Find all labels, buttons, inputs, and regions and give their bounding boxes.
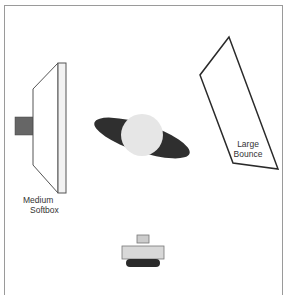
medium-softbox bbox=[15, 63, 66, 193]
label-line: Large bbox=[228, 139, 268, 149]
softbox-body bbox=[33, 63, 58, 193]
camera-base bbox=[126, 259, 160, 267]
softbox-diffuser-face bbox=[58, 63, 66, 193]
camera bbox=[122, 235, 164, 267]
label-line: Softbox bbox=[17, 205, 69, 215]
subject-head bbox=[121, 114, 163, 156]
softbox-light-head bbox=[15, 117, 33, 135]
camera-viewfinder bbox=[137, 235, 149, 243]
subject bbox=[90, 109, 194, 167]
label-line: Bounce bbox=[228, 149, 268, 159]
medium-softbox-label: Medium Softbox bbox=[17, 195, 69, 215]
large-bounce-label: Large Bounce bbox=[228, 139, 268, 159]
camera-body bbox=[122, 246, 164, 259]
label-line: Medium bbox=[17, 195, 69, 205]
